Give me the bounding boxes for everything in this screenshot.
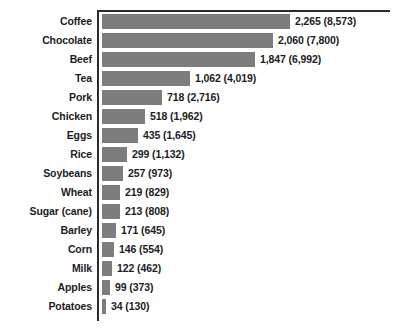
category-label: Milk — [0, 261, 92, 276]
bar-value-label: 213 (808) — [125, 204, 169, 219]
category-label: Chicken — [0, 109, 92, 124]
category-label: Beef — [0, 52, 92, 67]
category-label: Wheat — [0, 185, 92, 200]
bar — [102, 204, 120, 219]
bar — [102, 147, 127, 162]
bar-value-label: 257 (973) — [128, 166, 172, 181]
bar-value-label: 2,265 (8,573) — [295, 14, 356, 29]
category-label: Potatoes — [0, 299, 92, 314]
bar-row: Pork718 (2,716) — [0, 90, 401, 109]
bar — [102, 185, 120, 200]
bar — [102, 166, 123, 181]
bar-value-label: 1,062 (4,019) — [195, 71, 256, 86]
bar-value-label: 99 (373) — [115, 280, 153, 295]
category-label: Eggs — [0, 128, 92, 143]
category-label: Barley — [0, 223, 92, 238]
bar-row: Chicken518 (1,962) — [0, 109, 401, 128]
bar-rows-container: Coffee2,265 (8,573)Chocolate2,060 (7,800… — [0, 14, 401, 318]
bar-row: Corn146 (554) — [0, 242, 401, 261]
bar — [102, 52, 255, 67]
bar-value-label: 435 (1,645) — [143, 128, 196, 143]
bar — [102, 261, 112, 276]
bar — [102, 109, 145, 124]
bar-value-label: 1,847 (6,992) — [260, 52, 321, 67]
bar-value-label: 2,060 (7,800) — [278, 33, 339, 48]
bar-value-label: 219 (829) — [125, 185, 169, 200]
bar — [102, 90, 162, 105]
bar-row: Potatoes34 (130) — [0, 299, 401, 318]
bar-row: Rice299 (1,132) — [0, 147, 401, 166]
category-label: Rice — [0, 147, 92, 162]
axis-top-rule — [97, 10, 390, 12]
bar — [102, 128, 138, 143]
bar-row: Eggs435 (1,645) — [0, 128, 401, 147]
category-label: Soybeans — [0, 166, 92, 181]
bar-row: Beef1,847 (6,992) — [0, 52, 401, 71]
category-label: Corn — [0, 242, 92, 257]
category-label: Tea — [0, 71, 92, 86]
bar — [102, 280, 110, 295]
bar-row: Coffee2,265 (8,573) — [0, 14, 401, 33]
bar-row: Soybeans257 (973) — [0, 166, 401, 185]
bar — [102, 71, 190, 86]
bar — [102, 223, 116, 238]
bar — [102, 242, 114, 257]
bar — [102, 33, 273, 48]
bar-value-label: 518 (1,962) — [150, 109, 203, 124]
bar-row: Wheat219 (829) — [0, 185, 401, 204]
category-label: Coffee — [0, 14, 92, 29]
bar — [102, 299, 106, 314]
bar-row: Chocolate2,060 (7,800) — [0, 33, 401, 52]
category-label: Sugar (cane) — [0, 204, 92, 219]
bar-value-label: 146 (554) — [119, 242, 163, 257]
category-label: Apples — [0, 280, 92, 295]
bar-row: Sugar (cane)213 (808) — [0, 204, 401, 223]
bar-row: Barley171 (645) — [0, 223, 401, 242]
bar-value-label: 171 (645) — [121, 223, 165, 238]
category-label: Chocolate — [0, 33, 92, 48]
bar-row: Tea1,062 (4,019) — [0, 71, 401, 90]
category-label: Pork — [0, 90, 92, 105]
bar-row: Apples99 (373) — [0, 280, 401, 299]
bar-value-label: 34 (130) — [111, 299, 149, 314]
bar-value-label: 718 (2,716) — [167, 90, 220, 105]
bar-value-label: 122 (462) — [117, 261, 161, 276]
bar-chart: Coffee2,265 (8,573)Chocolate2,060 (7,800… — [0, 0, 401, 329]
bar — [102, 14, 290, 29]
bar-row: Milk122 (462) — [0, 261, 401, 280]
bar-value-label: 299 (1,132) — [132, 147, 185, 162]
